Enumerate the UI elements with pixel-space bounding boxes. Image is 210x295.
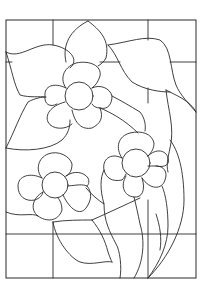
flower-top — [45, 62, 112, 128]
leaf-left-middle — [6, 97, 70, 150]
flower-bottom-left-center — [42, 172, 68, 198]
leaf-top-left — [6, 45, 74, 97]
grid-lines — [6, 20, 196, 278]
leaf-center — [100, 96, 145, 133]
leaf-bottom — [53, 220, 112, 263]
leaf-center-lower — [86, 170, 104, 204]
leaf-top-center — [65, 21, 107, 66]
flower-bottom-left — [6, 153, 91, 220]
flower-top-center — [65, 82, 93, 110]
leaf-right — [166, 90, 196, 172]
outer-frame — [6, 20, 196, 278]
flower-right-center — [122, 149, 150, 177]
line-art — [0, 0, 210, 295]
flower-right — [104, 132, 169, 197]
stained-glass-pattern — [0, 0, 210, 295]
